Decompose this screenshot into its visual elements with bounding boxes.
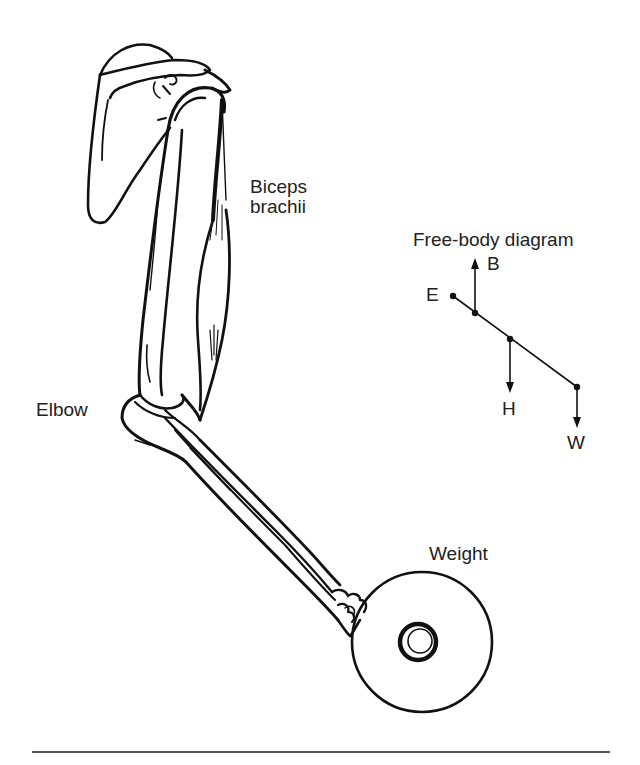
figure-canvas: Biceps brachii Elbow Weight Free-body di… [0, 0, 640, 765]
fbd-label-w: W [567, 432, 585, 454]
biceps-drawing [197, 100, 229, 420]
forearm-drawing [165, 418, 340, 620]
fbd-label-h: H [502, 398, 516, 420]
elbow-label: Elbow [36, 399, 88, 421]
fbd-title: Free-body diagram [413, 229, 574, 251]
biceps-label-line1: Biceps [250, 176, 307, 198]
weight-disc-drawing [352, 572, 492, 712]
fbd-label-e: E [426, 284, 439, 306]
fbd-label-b: B [487, 253, 500, 275]
arm-illustration [0, 0, 640, 765]
biceps-label-line2: brachii [250, 196, 306, 218]
caption-divider [32, 751, 610, 753]
wrist-bones-drawing [332, 590, 366, 636]
elbow-joint-drawing [122, 395, 200, 462]
weight-label: Weight [429, 543, 488, 565]
